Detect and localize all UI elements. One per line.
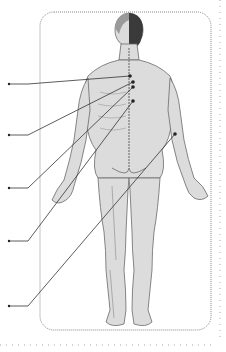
point-2: [131, 80, 135, 84]
point-1: [128, 74, 132, 78]
left-leg: [98, 178, 129, 326]
end-dot-4: [8, 240, 10, 242]
hair-right: [129, 13, 143, 48]
end-dot-1: [8, 83, 10, 85]
end-dot-3: [8, 187, 10, 189]
point-4: [131, 99, 135, 103]
right-leg: [129, 178, 160, 326]
human-body-back: [52, 13, 208, 326]
right-arm: [168, 78, 208, 200]
anatomy-figure: [0, 0, 226, 352]
point-5: [173, 132, 177, 136]
anatomy-svg: [0, 0, 226, 352]
end-dot-5: [8, 305, 10, 307]
end-dot-2: [8, 134, 10, 136]
point-3: [131, 85, 135, 89]
